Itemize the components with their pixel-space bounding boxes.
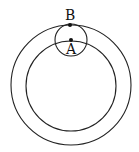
label-b: B xyxy=(65,7,75,23)
concentric-circles-diagram: B A xyxy=(0,0,139,152)
point-b xyxy=(68,23,72,27)
label-a: A xyxy=(65,41,77,57)
